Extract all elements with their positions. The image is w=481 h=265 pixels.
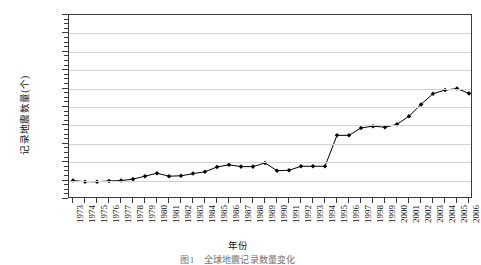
y-minor-tick [64,101,68,102]
x-tick-mark [360,198,361,203]
y-axis-title: 记录地震数量(个) [17,55,31,175]
data-point-marker [467,91,472,96]
x-tick-mark [84,198,85,203]
x-tick-label: 1980 [160,205,169,223]
x-tick-label: 1998 [376,205,385,223]
y-tick-mark [62,106,68,107]
y-minor-tick [64,65,68,66]
x-tick-label: 1992 [304,205,313,223]
x-tick-label: 1974 [88,205,97,223]
x-tick-mark [180,198,181,203]
x-tick-mark [192,198,193,203]
x-tick-label: 2006 [472,205,481,223]
x-tick-mark [324,198,325,203]
y-minor-tick [64,147,68,148]
x-tick-label: 1999 [388,205,397,223]
plot-area [68,14,472,198]
x-tick-mark [120,198,121,203]
data-point-marker [287,168,292,173]
data-point-marker [167,174,172,179]
x-tick-label: 2005 [460,205,469,223]
y-minor-tick [64,83,68,84]
data-point-marker [311,164,316,169]
x-tick-mark [228,198,229,203]
x-tick-label: 1997 [364,205,373,223]
x-tick-mark [384,198,385,203]
data-point-marker [203,170,208,175]
data-point-marker [251,164,256,169]
gridline [69,33,471,34]
x-tick-label: 1979 [148,205,157,223]
data-point-marker [335,133,340,138]
y-minor-tick [64,189,68,190]
y-minor-tick [64,97,68,98]
x-tick-mark [336,198,337,203]
y-minor-tick [64,111,68,112]
x-tick-label: 2002 [424,205,433,223]
x-tick-label: 1995 [340,205,349,223]
y-minor-tick [64,157,68,158]
y-tick-mark [62,32,68,33]
y-minor-tick [64,46,68,47]
y-minor-tick [64,60,68,61]
x-tick-label: 1989 [268,205,277,223]
x-tick-mark [420,198,421,203]
x-tick-mark [408,198,409,203]
y-minor-tick [64,23,68,24]
y-tick-mark [62,180,68,181]
data-point-marker [179,174,184,179]
x-tick-mark [288,198,289,203]
gridline [69,52,471,53]
data-point-marker [299,164,304,169]
y-minor-tick [64,120,68,121]
y-minor-tick [64,175,68,176]
y-minor-tick [64,19,68,20]
x-tick-label: 1977 [124,205,133,223]
x-tick-label: 1987 [244,205,253,223]
y-tick-mark [62,124,68,125]
y-minor-tick [64,152,68,153]
data-point-marker [347,133,352,138]
y-minor-tick [64,28,68,29]
y-minor-tick [64,74,68,75]
data-point-marker [239,164,244,169]
data-point-marker [359,126,364,131]
data-point-marker [191,171,196,176]
x-tick-mark [312,198,313,203]
x-tick-mark [168,198,169,203]
x-tick-mark [456,198,457,203]
y-tick-mark [62,88,68,89]
series-line [73,89,469,182]
gridline [69,144,471,145]
x-tick-label: 1982 [184,205,193,223]
x-tick-label: 1976 [112,205,121,223]
x-tick-label: 2001 [412,205,421,223]
x-tick-mark [252,198,253,203]
y-minor-tick [64,166,68,167]
x-tick-label: 1975 [100,205,109,223]
x-tick-label: 1984 [208,205,217,223]
y-tick-mark [62,51,68,52]
y-minor-tick [64,138,68,139]
x-tick-mark [372,198,373,203]
x-tick-label: 1986 [232,205,241,223]
gridline [69,181,471,182]
x-tick-label: 1978 [136,205,145,223]
gridline [69,70,471,71]
x-tick-mark [96,198,97,203]
x-tick-label: 1988 [256,205,265,223]
gridline [69,107,471,108]
x-axis-title: 年份 [0,238,476,252]
y-minor-tick [64,78,68,79]
x-tick-label: 1994 [328,205,337,223]
data-point-marker [155,171,160,176]
x-tick-mark [72,198,73,203]
gridline [69,89,471,90]
y-tick-mark [62,198,68,199]
data-point-marker [323,164,328,169]
y-minor-tick [64,184,68,185]
figure-caption: 图1 全球地震记录数量变化 [0,253,476,265]
x-tick-mark [468,198,469,203]
x-tick-label: 1993 [316,205,325,223]
